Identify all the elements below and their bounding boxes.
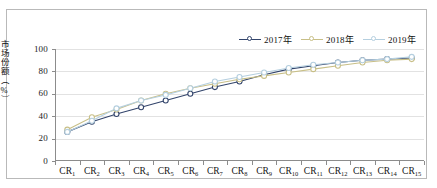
x-tick-mark	[227, 161, 228, 165]
x-tick-mark	[153, 161, 154, 165]
x-tick-label: CR6	[178, 167, 203, 177]
data-point	[409, 54, 414, 59]
data-point	[385, 57, 390, 62]
x-tick-mark	[55, 161, 56, 165]
legend-swatch-2017	[239, 35, 261, 44]
data-point	[188, 86, 193, 91]
data-point	[286, 66, 291, 71]
series-line	[67, 59, 411, 130]
legend-swatch-2018	[301, 35, 323, 44]
data-point	[237, 75, 242, 80]
legend-item-2019[interactable]: 2019年	[363, 33, 416, 46]
legend-item-2017[interactable]: 2017年	[239, 33, 292, 46]
chart-screenshot: 2017年 2018年 2019年 市场份额（%） 020406080100 C…	[0, 0, 437, 188]
x-tick-label: CR11	[301, 167, 326, 177]
x-tick-label: CR15	[399, 167, 424, 177]
data-point	[163, 92, 168, 97]
x-tick-mark	[252, 161, 253, 165]
data-point	[139, 105, 144, 110]
x-tick-mark	[350, 161, 351, 165]
x-tick-label: CR13	[350, 167, 375, 177]
series-2019年	[65, 54, 414, 134]
series-line	[67, 58, 411, 132]
data-point	[65, 129, 70, 134]
data-point	[139, 98, 144, 103]
legend-label-2019: 2019年	[388, 33, 416, 46]
data-point	[188, 91, 193, 96]
figure-frame: 2017年 2018年 2019年 市场份额（%） 020406080100 C…	[6, 9, 427, 179]
y-tick-label: 0	[22, 157, 48, 166]
x-tick-label: CR4	[129, 167, 154, 177]
y-tick-label: 40	[22, 112, 48, 121]
series-2017年	[65, 55, 414, 134]
x-tick-label: CR10	[276, 167, 301, 177]
x-tick-label: CR5	[153, 167, 178, 177]
data-point	[89, 118, 94, 123]
legend-swatch-2019	[363, 35, 385, 44]
y-tick-label: 60	[22, 89, 48, 98]
data-point	[262, 70, 267, 75]
data-point	[360, 58, 365, 63]
plot-wrapper: 020406080100 CR1CR2CR3CR4CR5CR6CR7CR8CR9…	[55, 49, 424, 161]
x-tick-mark	[424, 161, 425, 165]
y-tick-label: 100	[22, 45, 48, 54]
x-tick-mark	[80, 161, 81, 165]
x-tick-mark	[326, 161, 327, 165]
y-tick-label: 80	[22, 67, 48, 76]
series-lines	[55, 49, 424, 161]
x-tick-mark	[203, 161, 204, 165]
y-tick-label: 20	[22, 134, 48, 143]
data-point	[311, 62, 316, 67]
legend-item-2018[interactable]: 2018年	[301, 33, 354, 46]
x-tick-label: CR3	[104, 167, 129, 177]
data-point	[163, 98, 168, 103]
legend-label-2018: 2018年	[326, 33, 354, 46]
x-tick-label: CR9	[252, 167, 277, 177]
x-tick-label: CR2	[80, 167, 105, 177]
x-tick-mark	[129, 161, 130, 165]
x-tick-label: CR14	[375, 167, 400, 177]
x-tick-label: CR12	[326, 167, 351, 177]
legend-label-2017: 2017年	[264, 33, 292, 46]
x-tick-mark	[375, 161, 376, 165]
data-point	[335, 60, 340, 65]
x-tick-label: CR8	[227, 167, 252, 177]
data-point	[212, 79, 217, 84]
x-tick-label: CR7	[203, 167, 228, 177]
x-tick-mark	[301, 161, 302, 165]
y-axis-title: 市场份额（%）	[0, 40, 10, 104]
x-tick-mark	[399, 161, 400, 165]
series-line	[67, 57, 411, 132]
x-tick-mark	[104, 161, 105, 165]
x-tick-label: CR1	[55, 167, 80, 177]
x-tick-mark	[178, 161, 179, 165]
data-point	[114, 106, 119, 111]
series-2018年	[65, 57, 414, 133]
x-tick-mark	[276, 161, 277, 165]
chart-legend: 2017年 2018年 2019年	[239, 32, 425, 46]
